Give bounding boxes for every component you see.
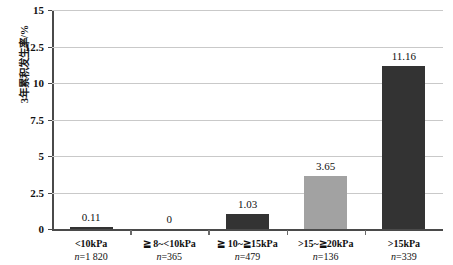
x-tick-mark [130, 230, 131, 235]
plot-area [52, 10, 443, 229]
y-axis-title: 3年累积发生率/% [16, 0, 34, 149]
y-tick-mark [48, 83, 52, 84]
y-tick-mark [48, 156, 52, 157]
bar [70, 227, 113, 230]
y-tick-label: 7.5 [4, 115, 44, 125]
x-tick-mark [287, 230, 288, 235]
y-tick-mark [48, 47, 52, 48]
y-tick-label: 15 [4, 5, 44, 15]
x-axis-line [52, 229, 443, 231]
x-category-label: >15kPan=339 [354, 237, 453, 263]
y-tick-label: 10 [4, 78, 44, 88]
bar [382, 66, 425, 229]
y-tick-mark [48, 10, 52, 11]
bar-value-label: 0.11 [51, 211, 131, 223]
x-category-sample-size: n=339 [354, 250, 453, 263]
bar-value-label: 1.03 [208, 198, 288, 210]
y-tick-mark [48, 193, 52, 194]
bar [226, 214, 269, 229]
bar-value-label: 3.65 [286, 160, 366, 172]
x-category-range: >15kPa [354, 237, 453, 250]
x-tick-mark [365, 230, 366, 235]
gridline [52, 10, 443, 11]
x-tick-mark [208, 230, 209, 235]
y-tick-label: 12.5 [4, 42, 44, 52]
bar-value-label: 0 [129, 213, 209, 225]
bar-chart: 3年累积发生率/% 02.557.51012.5150.11<10kPan=1 … [0, 0, 453, 265]
y-tick-label: 2.5 [4, 188, 44, 198]
y-tick-label: 5 [4, 151, 44, 161]
gridline [52, 47, 443, 48]
bar [304, 176, 347, 229]
y-tick-mark [48, 120, 52, 121]
bar-value-label: 11.16 [364, 50, 444, 62]
y-tick-mark [48, 229, 52, 230]
y-tick-label: 0 [4, 224, 44, 234]
